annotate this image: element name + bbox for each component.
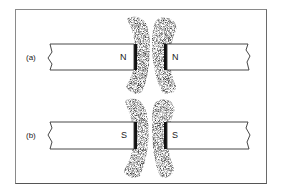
magnet-a-right — [167, 44, 250, 70]
pole-label-b-right: S — [172, 130, 178, 140]
pole-label-b-left: S — [121, 130, 127, 140]
row-label-b: (b) — [26, 131, 36, 140]
magnet-diagram — [0, 0, 283, 193]
pole-label-a-right: N — [172, 52, 179, 62]
row-label-a: (a) — [26, 53, 36, 62]
pole-label-a-left: N — [120, 52, 127, 62]
magnet-b-right — [167, 122, 250, 149]
